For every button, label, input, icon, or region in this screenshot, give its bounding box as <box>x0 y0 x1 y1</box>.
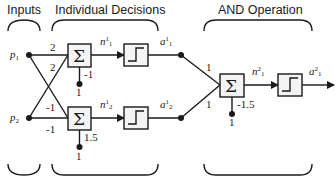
edge-h2-out <box>181 85 220 118</box>
sigma-icon: Σ <box>73 109 85 129</box>
neural-network-diagram: Inputs Individual Decisions AND Operatio… <box>0 0 336 187</box>
net-input-n1-2-label: n12 <box>100 98 113 111</box>
input-p2-label: p2 <box>9 111 20 125</box>
weight-layer2-w2: 1 <box>206 98 212 110</box>
bias-input-neuron2: 1 <box>76 150 82 162</box>
bias-value-neuron1: -1 <box>84 68 93 80</box>
bias-value-neuron2: 1.5 <box>84 131 98 143</box>
output-a2-1-label: a21 <box>309 65 322 78</box>
sigma-icon: Σ <box>73 46 85 66</box>
input-p1-label: p1 <box>9 48 20 62</box>
output-a1-1-label: a11 <box>160 35 173 48</box>
net-input-n2-1-label: n21 <box>252 65 265 78</box>
bias-input-neuron1: 1 <box>76 86 82 98</box>
bracket-bottom-individual <box>52 164 158 175</box>
header-individual-decisions: Individual Decisions <box>55 3 165 17</box>
bracket-top-and <box>204 20 312 31</box>
net-input-n1-1-label: n11 <box>100 35 113 48</box>
bracket-bottom-inputs <box>8 164 40 175</box>
bracket-top-inputs <box>8 20 40 31</box>
output-a1-2-label: a12 <box>160 98 173 111</box>
header-and-operation: AND Operation <box>218 3 303 17</box>
edge-h1-out <box>181 55 220 85</box>
weight-layer2-w1: 1 <box>206 61 212 73</box>
bias-input-layer2: 1 <box>229 116 235 128</box>
bias-value-layer2: -1.5 <box>237 98 255 110</box>
sigma-icon: Σ <box>225 76 237 96</box>
bracket-top-individual <box>52 20 158 31</box>
weight-w22: -1 <box>46 123 55 135</box>
weight-w21: -1 <box>46 101 55 113</box>
weight-w11: 2 <box>50 41 56 53</box>
bracket-bottom-and <box>204 164 312 175</box>
weight-w12: 2 <box>50 61 56 73</box>
header-inputs: Inputs <box>7 3 41 17</box>
